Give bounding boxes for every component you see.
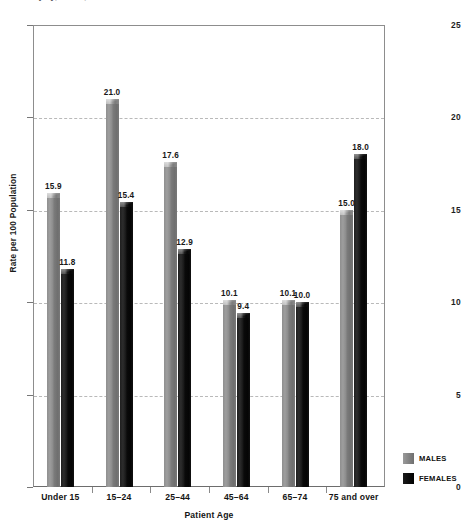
bar-top-cap — [340, 210, 353, 215]
bar-females — [237, 313, 250, 487]
y-axis-label: 20 — [437, 112, 461, 122]
bar-top-cap — [237, 313, 250, 318]
bar-males — [164, 162, 177, 487]
bar-top-cap — [120, 202, 133, 207]
bar-value-label: 12.9 — [165, 238, 205, 247]
legend-label: FEMALES — [419, 474, 457, 483]
bar-value-label: 10.1 — [209, 289, 249, 298]
gridline — [34, 303, 384, 304]
gridline — [34, 211, 384, 212]
bar-value-label: 17.6 — [151, 151, 191, 160]
chart-legend: MALESFEMALES — [403, 450, 461, 490]
bar-value-label: 15.9 — [33, 182, 73, 191]
bar-value-label: 11.8 — [47, 258, 87, 267]
bar-top-cap — [282, 300, 295, 305]
x-axis-category-label: 75 and over — [309, 492, 399, 502]
bar-top-cap — [61, 269, 74, 274]
bar-value-label: 9.4 — [223, 302, 263, 311]
bar-top-cap — [354, 154, 367, 159]
y-axis-label: 10 — [437, 297, 461, 307]
legend-label: MALES — [419, 454, 447, 463]
y-axis-label: 5 — [437, 390, 461, 400]
bar-males — [340, 210, 353, 487]
bar-males — [223, 300, 236, 487]
y-axis-tick — [27, 487, 33, 488]
gridline — [34, 118, 384, 119]
bar-value-label: 10.0 — [282, 291, 322, 300]
legend-swatch-icon — [403, 453, 414, 464]
bar-value-label: 18.0 — [341, 143, 381, 152]
bar-males — [47, 193, 60, 487]
bar-females — [61, 269, 74, 487]
plot-area — [33, 25, 385, 487]
bar-females — [178, 249, 191, 487]
bar-top-cap — [296, 302, 309, 307]
legend-item: MALES — [403, 450, 461, 466]
y-axis-tick — [27, 395, 33, 396]
bar-value-label: 15.4 — [106, 191, 146, 200]
y-axis-tick — [27, 25, 33, 26]
legend-item: FEMALES — [403, 470, 461, 486]
bar-chart: 0510152025 Rate per 100 Population Under… — [0, 0, 461, 522]
y-axis-title: Rate per 100 Population — [8, 163, 18, 283]
legend-swatch-icon — [403, 473, 414, 484]
y-axis-tick — [27, 210, 33, 211]
y-axis-tick — [27, 117, 33, 118]
bar-males — [282, 300, 295, 487]
x-axis-title: Patient Age — [33, 510, 385, 520]
bar-value-label: 21.0 — [92, 88, 132, 97]
bar-females — [354, 154, 367, 487]
y-axis-tick — [27, 302, 33, 303]
bar-top-cap — [178, 249, 191, 254]
y-axis-label: 25 — [437, 20, 461, 30]
bar-males — [106, 99, 119, 487]
bar-top-cap — [106, 99, 119, 104]
bar-females — [120, 202, 133, 487]
bar-top-cap — [47, 193, 60, 198]
gridline — [34, 396, 384, 397]
bar-top-cap — [164, 162, 177, 167]
y-axis-label: 15 — [437, 205, 461, 215]
bar-females — [296, 302, 309, 487]
